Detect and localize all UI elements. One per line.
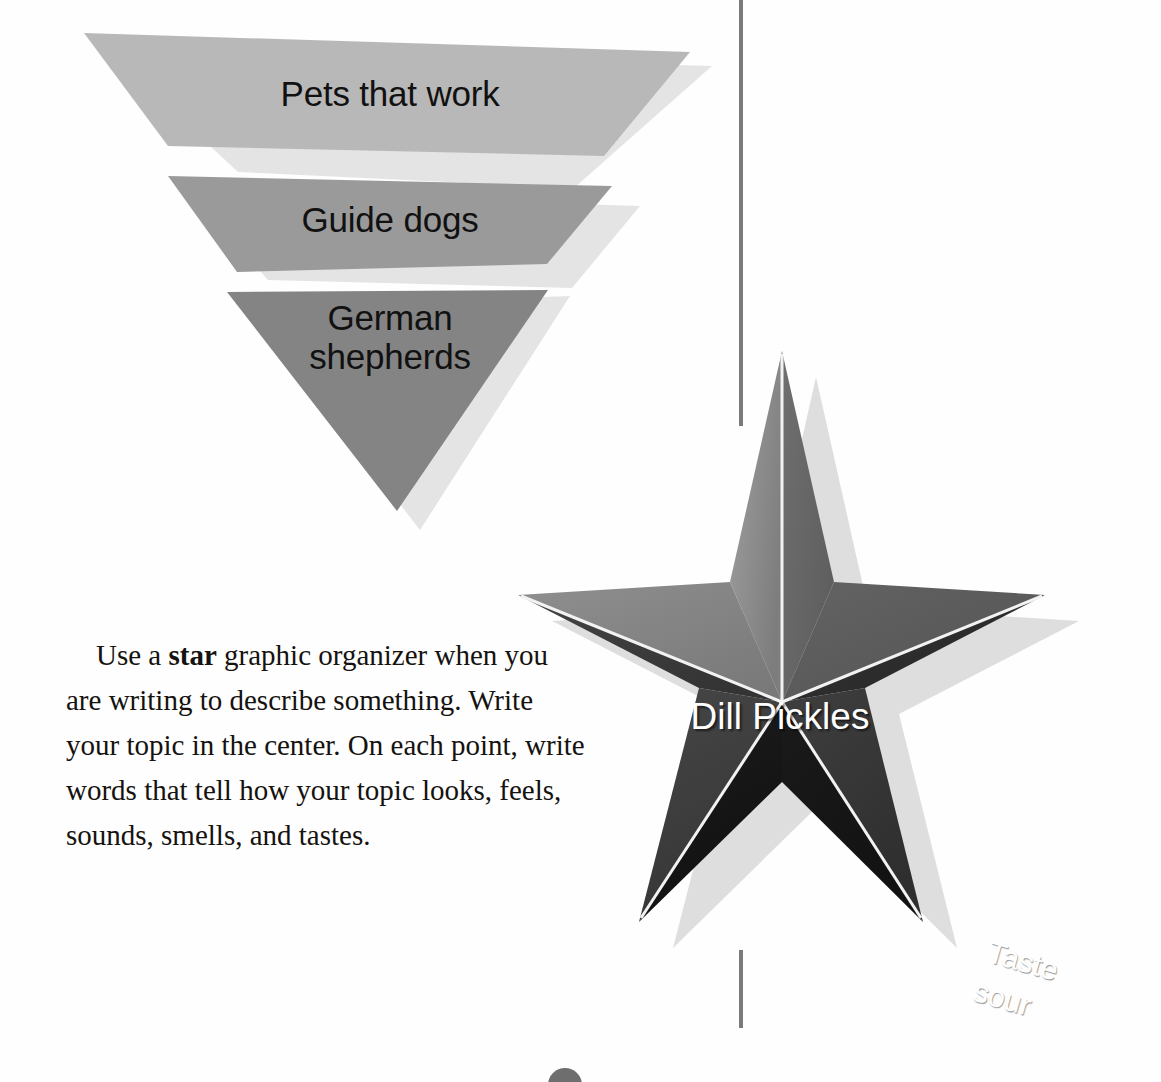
pyramid-level-1-label: Pets that work: [150, 74, 630, 113]
star-graphic-organizer: Look green Taste sour Feel wet and slimy…: [420, 330, 1120, 1050]
paragraph-lead-tail: graphic: [217, 639, 311, 671]
page-number-dot: [548, 1068, 582, 1082]
paragraph-bold-star: star: [168, 639, 216, 671]
pyramid-level-2-label: Guide dogs: [150, 200, 630, 239]
page-canvas: Pets that work Guide dogs German shepher…: [0, 0, 1161, 1082]
paragraph-lead: Use a: [66, 639, 168, 671]
